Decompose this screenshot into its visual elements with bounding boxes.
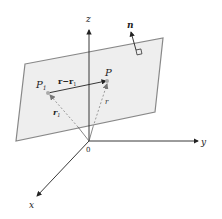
x-axis-label: x	[29, 200, 34, 210]
z-axis-label: z	[85, 14, 91, 24]
y-axis-label: y	[200, 137, 207, 147]
normal-label: n	[127, 20, 134, 30]
p-label: P	[104, 67, 112, 78]
point-p	[105, 79, 109, 83]
point-p1	[46, 91, 50, 95]
plane-diagram: z y x 0 n P1 P r−r1 r1 r	[0, 0, 222, 219]
origin-label: 0	[86, 146, 90, 154]
x-axis	[37, 141, 89, 196]
